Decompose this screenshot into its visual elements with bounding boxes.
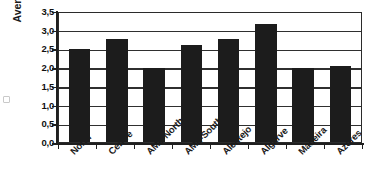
bar-aml-south[interactable] [181, 45, 203, 142]
bar-slot [322, 13, 359, 142]
x-axis-category-labels: NorthCentreAML-NorthAML-SouthAlentejoAlg… [58, 149, 362, 194]
y-axis-tick-mark [52, 49, 58, 50]
bar-slot [61, 13, 98, 142]
bar-centre[interactable] [106, 39, 128, 142]
y-axis-tick-mark [52, 31, 58, 32]
y-axis-tick-label: 0,0 [28, 138, 54, 148]
y-axis-tick-label: 2,0 [28, 63, 54, 73]
bar-azores[interactable] [330, 66, 352, 142]
x-axis-tick-mark [362, 144, 363, 149]
y-axis-tick-label: 3,0 [28, 26, 54, 36]
bar-slot [98, 13, 135, 142]
bar-alentejo[interactable] [218, 39, 240, 142]
x-axis-tick-mark [58, 144, 59, 149]
bar-aml-north[interactable] [143, 68, 165, 142]
bar-slot [285, 13, 322, 142]
y-axis-tick-mark [52, 124, 58, 125]
bar-chart: Average n. of jobs 3,53,02,52,01,51,00,5… [0, 0, 392, 196]
x-axis-tick-mark [324, 144, 325, 149]
y-axis-tick-labels: 3,53,02,52,01,51,00,50,0 [28, 7, 54, 145]
bar-north[interactable] [69, 49, 91, 142]
y-axis-tick-label: 0,5 [28, 119, 54, 129]
y-axis-tick-mark [52, 106, 58, 107]
x-axis-tick-mark [134, 144, 135, 149]
x-axis-tick-mark [286, 144, 287, 149]
y-axis-tick-mark [52, 68, 58, 69]
x-axis-tick-mark [96, 144, 97, 149]
y-axis-tick-mark [52, 87, 58, 88]
x-axis-tick-mark [172, 144, 173, 149]
bar-algarve[interactable] [255, 24, 277, 142]
scan-artifact [3, 96, 10, 103]
y-axis-tick-label: 1,5 [28, 82, 54, 92]
bar-slot [247, 13, 284, 142]
y-axis-tick-label: 2,5 [28, 44, 54, 54]
bar-slot [136, 13, 173, 142]
y-axis-title: Average n. of jobs [9, 0, 25, 44]
y-axis-tick-label: 3,5 [28, 7, 54, 17]
y-axis-tick-mark [52, 12, 58, 13]
y-axis-tick-label: 1,0 [28, 101, 54, 111]
x-axis-tick-mark [248, 144, 249, 149]
bar-madeira[interactable] [292, 68, 314, 142]
x-axis-tick-mark [210, 144, 211, 149]
